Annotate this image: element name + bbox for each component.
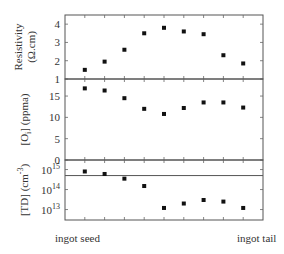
data-point [221, 200, 225, 204]
data-point [202, 198, 206, 202]
data-point [103, 89, 107, 93]
y-tick-label: 10 [49, 111, 61, 123]
y-axis-label: Resistivity [12, 23, 24, 71]
x-label-tail: ingot tail [237, 232, 276, 244]
y-tick-label: 1015 [41, 162, 60, 176]
data-point [162, 206, 166, 210]
y-tick-label: 5 [55, 133, 61, 145]
chart-canvas: 1234Resistivity(Ω.cm)051015[Oi] (ppma)10… [0, 0, 284, 254]
y-axis-label: [TD] (cm-3) [16, 164, 31, 217]
y-tick-label: 1014 [41, 182, 60, 196]
data-point [83, 86, 87, 90]
y-tick-label: 4 [55, 18, 61, 30]
data-point [182, 202, 186, 206]
data-point [142, 107, 146, 111]
data-point [241, 206, 245, 210]
panel-frame-bottom [65, 160, 263, 220]
data-point [221, 53, 225, 57]
data-point [162, 112, 166, 116]
y-tick-label: 2 [55, 55, 61, 67]
data-point [241, 61, 245, 65]
y-axis-label: [Oi] (ppma) [18, 93, 33, 145]
y-axis-label-unit: (Ω.cm) [25, 31, 38, 63]
data-point [162, 26, 166, 30]
data-point [83, 169, 87, 173]
y-tick-label: 15 [49, 90, 61, 102]
data-point [221, 100, 225, 104]
data-point [103, 172, 107, 176]
data-point [142, 31, 146, 35]
y-tick-label: 1013 [41, 202, 60, 216]
data-point [202, 32, 206, 36]
data-point [122, 96, 126, 100]
data-point [202, 100, 206, 104]
data-point [142, 184, 146, 188]
data-point [83, 68, 87, 72]
data-point [241, 106, 245, 110]
panel-frame-top [65, 15, 263, 79]
data-point [182, 29, 186, 33]
panel-frame-middle [65, 79, 263, 160]
data-point [182, 106, 186, 110]
data-point [122, 48, 126, 52]
x-label-seed: ingot seed [55, 232, 100, 244]
y-tick-label: 1 [55, 73, 61, 85]
data-point [122, 177, 126, 181]
data-point [103, 60, 107, 64]
y-tick-label: 3 [55, 36, 61, 48]
